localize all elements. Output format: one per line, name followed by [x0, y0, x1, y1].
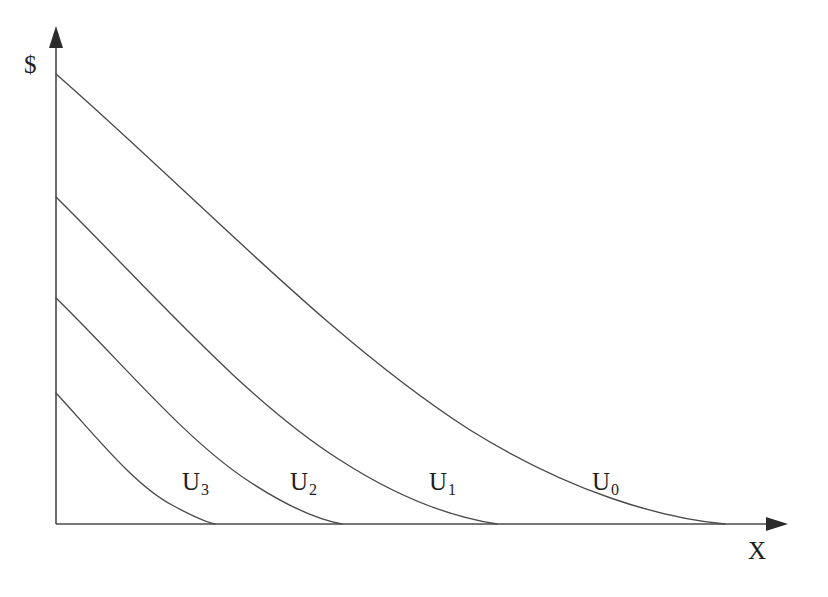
- x-axis-label: X: [748, 538, 766, 563]
- curve-label-u0-base: U: [592, 468, 610, 495]
- y-axis-label: $: [24, 52, 37, 77]
- indifference-curve-figure: $ X U3 U2 U1 U0: [0, 0, 828, 597]
- curve-label-u0: U0: [592, 469, 618, 494]
- x-axis-arrow-icon: [766, 517, 788, 531]
- curve-label-u1-subscript: 1: [448, 481, 456, 498]
- curve-label-u3-base: U: [182, 468, 200, 495]
- curve-label-u2-subscript: 2: [309, 481, 317, 498]
- curve-label-u2: U2: [290, 469, 316, 494]
- curve-label-u0-subscript: 0: [611, 481, 619, 498]
- curve-label-u3-subscript: 3: [201, 481, 209, 498]
- curve-label-u2-base: U: [290, 468, 308, 495]
- chart-canvas: [0, 0, 828, 597]
- curve-label-u3: U3: [182, 469, 208, 494]
- y-axis-arrow-icon: [49, 26, 63, 48]
- curve-u3: [56, 393, 215, 524]
- curve-label-u1-base: U: [429, 468, 447, 495]
- curve-label-u1: U1: [429, 469, 455, 494]
